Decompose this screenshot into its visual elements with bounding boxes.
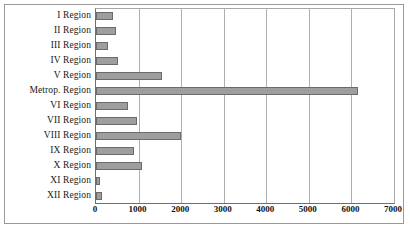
bar — [96, 192, 102, 200]
x-axis-tick-label: 7000 — [384, 204, 402, 215]
category-label: IV Region — [8, 55, 94, 65]
x-axis-tick-label: 5000 — [299, 204, 317, 215]
x-axis-tick-label: 3000 — [214, 204, 232, 215]
category-axis: I Region II Region III Region IV Region … — [8, 8, 94, 202]
category-label: VII Region — [8, 115, 94, 125]
bar — [96, 177, 100, 185]
category-label: VI Region — [8, 100, 94, 110]
bar — [96, 162, 142, 170]
x-axis-tick-label: 2000 — [171, 204, 189, 215]
bar — [96, 57, 118, 65]
plot-area — [95, 8, 395, 204]
bar — [96, 102, 128, 110]
bar — [96, 27, 116, 35]
x-axis-tick-label: 1000 — [129, 204, 147, 215]
bar-row — [96, 87, 394, 95]
bar-row — [96, 162, 394, 170]
bar-row — [96, 192, 394, 200]
category-label: VIII Region — [8, 130, 94, 140]
bar — [96, 87, 358, 95]
category-label: II Region — [8, 25, 94, 35]
bar-row — [96, 177, 394, 185]
category-label: IX Region — [8, 145, 94, 155]
bar-row — [96, 117, 394, 125]
bar-row — [96, 42, 394, 50]
x-axis-tick-label: 6000 — [341, 204, 359, 215]
x-axis-tick-label: 0 — [93, 204, 98, 215]
bar-row — [96, 72, 394, 80]
bar-row — [96, 147, 394, 155]
category-label: XII Region — [8, 190, 94, 200]
bar-row — [96, 27, 394, 35]
bar-row — [96, 102, 394, 110]
bar — [96, 132, 181, 140]
bar — [96, 147, 134, 155]
bar — [96, 12, 113, 20]
x-axis-tick-label: 4000 — [256, 204, 274, 215]
bar-row — [96, 12, 394, 20]
bar — [96, 117, 137, 125]
bar-series — [96, 9, 394, 203]
bar-chart-figure: I Region II Region III Region IV Region … — [0, 0, 410, 229]
category-label: III Region — [8, 40, 94, 50]
value-axis: 01000200030004000500060007000 — [95, 204, 394, 220]
category-label: V Region — [8, 70, 94, 80]
bar — [96, 72, 162, 80]
category-label: Metrop. Region — [8, 85, 94, 95]
category-label: XI Region — [8, 175, 94, 185]
category-label: X Region — [8, 160, 94, 170]
category-label: I Region — [8, 10, 94, 20]
bar — [96, 42, 108, 50]
bar-row — [96, 57, 394, 65]
bar-row — [96, 132, 394, 140]
